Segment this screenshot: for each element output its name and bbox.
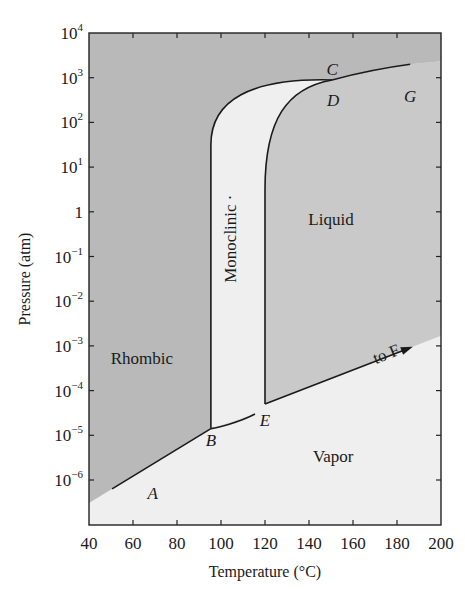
x-tick-label: 180 <box>384 534 410 553</box>
x-tick-label: 140 <box>296 534 322 553</box>
phase-diagram: 406080100120140160180200 104103102101110… <box>0 0 465 589</box>
point-label-d: D <box>326 91 340 110</box>
region-label-monoclinic: Monoclinic · <box>221 194 240 282</box>
point-label-b: B <box>206 431 217 450</box>
point-label-g: G <box>404 87 416 106</box>
x-tick-label: 100 <box>208 534 234 553</box>
point-label-a: A <box>147 484 159 503</box>
x-axis-label: Temperature (°C) <box>209 563 321 581</box>
x-tick-label: 80 <box>169 534 186 553</box>
region-label-liquid: Liquid <box>308 210 354 229</box>
region-label-rhombic: Rhombic <box>111 349 174 368</box>
region-label-vapor: Vapor <box>313 447 354 466</box>
x-tick-label: 160 <box>340 534 366 553</box>
x-tick-label: 40 <box>81 534 98 553</box>
plot-area <box>89 33 441 525</box>
x-tick-label: 200 <box>428 534 454 553</box>
point-label-c: C <box>326 60 338 79</box>
x-tick-label: 120 <box>252 534 278 553</box>
y-tick-label: 1 <box>75 203 84 222</box>
point-label-e: E <box>259 411 271 430</box>
x-tick-label: 60 <box>125 534 142 553</box>
y-axis-label: Pressure (atm) <box>16 233 34 326</box>
